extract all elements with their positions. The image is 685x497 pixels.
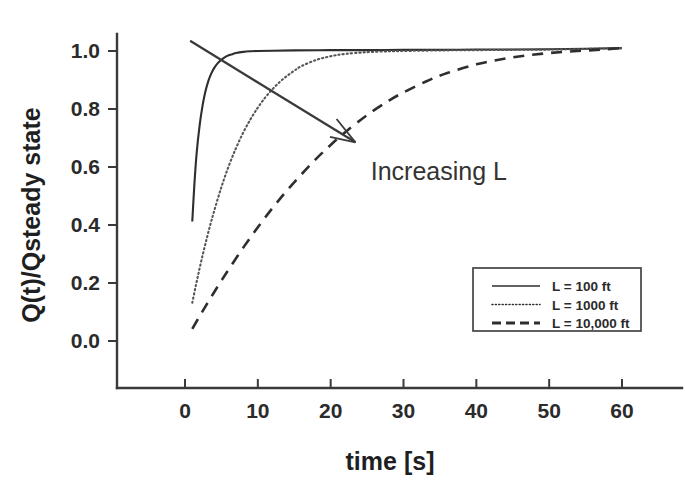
legend-label: L = 100 ft (552, 279, 611, 294)
legend-label: L = 1000 ft (552, 298, 619, 313)
x-axis-title: time [s] (346, 447, 435, 475)
legend-label: L = 10,000 ft (552, 316, 630, 331)
x-tick-label: 40 (465, 399, 488, 422)
y-tick-label: 0.8 (71, 97, 101, 120)
x-tick-label: 60 (610, 399, 633, 422)
y-tick-label: 1.0 (71, 39, 100, 62)
y-tick-label: 0.4 (71, 213, 101, 236)
x-tick-label: 20 (319, 399, 342, 422)
increasing-l-label: Increasing L (371, 157, 507, 185)
legend: L = 100 ftL = 1000 ftL = 10,000 ft (473, 268, 641, 331)
y-tick-label: 0.6 (71, 155, 100, 178)
x-axis-ticks: 0102030405060 (179, 379, 634, 422)
y-axis-title: Q(t)/Qsteady state (17, 107, 45, 322)
curve-solid (192, 48, 622, 221)
x-tick-label: 30 (392, 399, 415, 422)
x-tick-label: 10 (246, 399, 269, 422)
chart-figure: 0.00.20.40.60.81.0 0102030405060 Increas… (0, 0, 685, 497)
figure-container: 0.00.20.40.60.81.0 0102030405060 Increas… (0, 0, 685, 497)
legend-entries: L = 100 ftL = 1000 ftL = 10,000 ft (492, 279, 630, 331)
x-tick-label: 50 (537, 399, 560, 422)
x-tick-label: 0 (179, 399, 191, 422)
y-axis-ticks: 0.00.20.40.60.81.0 (71, 39, 117, 352)
axes-group (117, 34, 682, 388)
y-tick-label: 0.2 (71, 271, 100, 294)
annotation-group: Increasing L (190, 41, 507, 186)
y-tick-label: 0.0 (71, 329, 100, 352)
